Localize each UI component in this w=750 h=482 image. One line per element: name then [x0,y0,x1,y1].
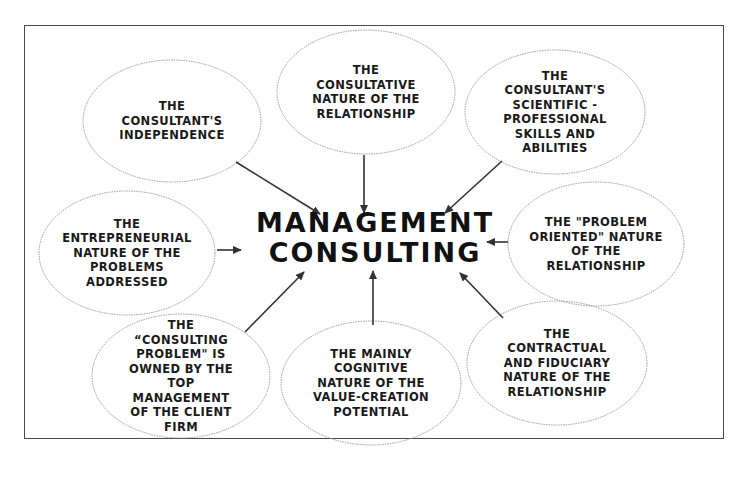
node-label: THE "PROBLEM ORIENTED" NATURE OF THE REL… [529,215,663,273]
node-label: THE CONSULTANT'S SCIENTIFIC - PROFESSION… [503,69,607,156]
node-label: THE CONSULTATIVE NATURE OF THE RELATIONS… [312,63,420,121]
node-consulting-problem: THE “CONSULTING PROBLEM" IS OWNED BY THE… [92,314,270,438]
node-problem-oriented: THE "PROBLEM ORIENTED" NATURE OF THE REL… [508,182,684,306]
center-title: MANAGEMENT CONSULTING [225,208,525,268]
node-contractual: THE CONTRACTUAL AND FIDUCIARY NATURE OF … [467,301,647,425]
node-label: THE CONSULTANT'S INDEPENDENCE [119,99,224,143]
node-entrepreneurial: THE ENTREPRENEURIAL NATURE OF THE PROBLE… [39,191,215,315]
node-label: THE MAINLY COGNITIVE NATURE OF THE VALUE… [313,347,429,420]
node-label: THE CONTRACTUAL AND FIDUCIARY NATURE OF … [503,327,611,400]
node-scientific: THE CONSULTANT'S SCIENTIFIC - PROFESSION… [465,50,645,174]
node-label: THE “CONSULTING PROBLEM" IS OWNED BY THE… [129,318,233,434]
node-cognitive: THE MAINLY COGNITIVE NATURE OF THE VALUE… [281,321,461,445]
node-independence: THE CONSULTANT'S INDEPENDENCE [83,60,261,182]
node-consultative: THE CONSULTATIVE NATURE OF THE RELATIONS… [277,30,455,154]
node-label: THE ENTREPRENEURIAL NATURE OF THE PROBLE… [62,217,191,290]
